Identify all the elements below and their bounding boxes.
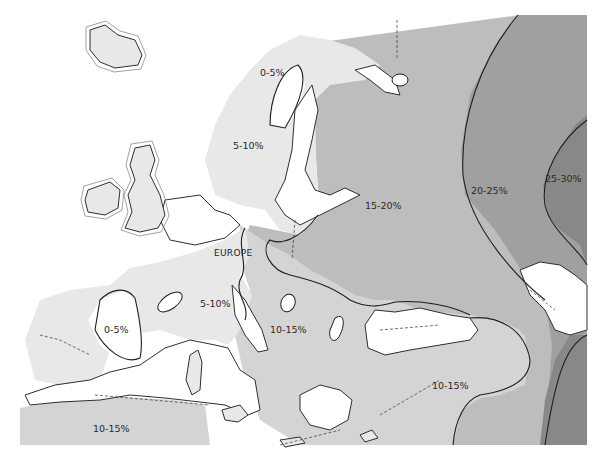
label-scandinavia-0-5: 0-5% [260,67,285,78]
label-eastern-15-20: 15-20% [365,200,402,211]
iceland [90,25,142,68]
label-iberia-0-5: 0-5% [104,324,129,335]
label-russia-25-30: 25-30% [545,173,582,184]
label-europe: EUROPE [214,248,253,258]
label-russia-20-25: 20-25% [471,185,508,196]
label-central-10-15: 10-15% [270,324,307,335]
ireland [85,182,120,215]
label-africa-10-15: 10-15% [93,423,130,434]
label-western-5-10: 5-10% [200,298,231,309]
label-anatolia-10-15: 10-15% [432,380,469,391]
north-sea [160,195,240,245]
europe-percentage-map: 0-5% 5-10% 15-20% 20-25% 25-30% EUROPE 5… [0,0,603,465]
enclave-ukraine [392,74,408,86]
great-britain [125,145,165,232]
label-scandinavia-5-10: 5-10% [233,140,264,151]
